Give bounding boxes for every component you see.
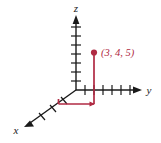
z-axis-arrowhead xyxy=(73,15,80,24)
x-axis-group: x xyxy=(13,90,76,136)
plotted-point-marker xyxy=(91,49,97,55)
x-axis-ticks xyxy=(39,97,67,120)
y-axis-arrowhead xyxy=(133,87,142,94)
y-axis-group: y xyxy=(76,84,152,96)
axes-svg: z y x xyxy=(0,0,161,143)
point-coordinate-label: (3, 4, 5) xyxy=(101,47,135,59)
y-axis-label: y xyxy=(146,84,152,96)
x-axis-line xyxy=(30,90,76,123)
coordinate-axes-figure: z y x xyxy=(0,0,161,143)
z-axis-group: z xyxy=(71,2,81,90)
z-axis-label: z xyxy=(73,2,79,14)
x-axis-label: x xyxy=(13,124,19,136)
